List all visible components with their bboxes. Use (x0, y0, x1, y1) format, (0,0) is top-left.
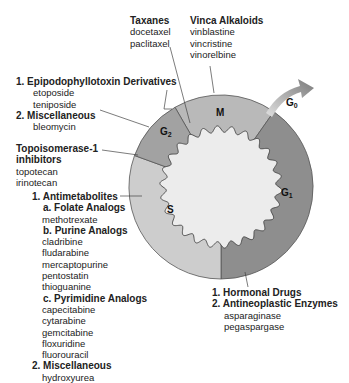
topoisomerase-group: Topoisomerase-1 inhibitors topotecan iri… (16, 143, 98, 188)
drug-vinorelbine: vinorelbine (190, 49, 263, 60)
drug-pentostatin: pentostatin (32, 270, 147, 281)
hormonal-drugs-heading: 1. Hormonal Drugs (212, 287, 338, 298)
drug-teniposide: teniposide (16, 99, 177, 110)
drug-gemcitabine: gemcitabine (32, 327, 147, 338)
taxanes-heading: Taxanes (130, 15, 171, 26)
drug-fludarabine: fludarabine (32, 247, 147, 258)
enzymes-heading: 2. Antineoplastic Enzymes (212, 298, 338, 309)
drug-thioguanine: thioguanine (32, 281, 147, 292)
drug-asparaginase: asparaginase (212, 310, 338, 321)
drug-etoposide: etoposide (16, 87, 177, 98)
drug-fluorouracil: fluorouracil (32, 349, 147, 360)
drug-mercaptopurine: mercaptopurine (32, 259, 147, 270)
drug-paclitaxel: paclitaxel (130, 38, 171, 49)
vinca-group: Vinca Alkaloids vinblastine vincristine … (190, 15, 263, 60)
taxanes-group: Taxanes docetaxel paclitaxel (130, 15, 171, 49)
pyrimidine-heading: c. Pyrimidine Analogs (32, 293, 147, 304)
drug-pegaspargase: pegaspargase (212, 321, 338, 332)
purine-heading: b. Purine Analogs (32, 225, 147, 236)
drug-irinotecan: irinotecan (16, 177, 98, 188)
drug-floxuridine: floxuridine (32, 338, 147, 349)
g2-misc-heading: 2. Miscellaneous (16, 110, 177, 121)
drug-cytarabine: cytarabine (32, 315, 147, 326)
s-misc-heading: 2. Miscellaneous (32, 360, 147, 371)
drug-capecitabine: capecitabine (32, 304, 147, 315)
drug-methotrexate: methotrexate (32, 214, 147, 225)
drug-cladribine: cladribine (32, 236, 147, 247)
vinca-heading: Vinca Alkaloids (190, 15, 263, 26)
epipodophyllotoxin-heading: 1. Epipodophyllotoxin Derivatives (16, 76, 177, 87)
drug-docetaxel: docetaxel (130, 26, 171, 37)
topo-heading-2: inhibitors (16, 154, 98, 165)
drug-hydroxyurea: hydroxyurea (32, 372, 147, 383)
s-drug-group: 1. Antimetabolites a. Folate Analogs met… (32, 191, 147, 383)
antimetabolites-heading: 1. Antimetabolites (32, 191, 147, 202)
drug-vincristine: vincristine (190, 38, 263, 49)
drug-vinblastine: vinblastine (190, 26, 263, 37)
phase-m-label: M (216, 107, 224, 118)
phase-g0-label: G0 (286, 97, 298, 109)
g1-drug-group: 1. Hormonal Drugs 2. Antineoplastic Enzy… (212, 287, 338, 332)
drug-topotecan: topotecan (16, 166, 98, 177)
folate-heading: a. Folate Analogs (32, 202, 147, 213)
drug-bleomycin: bleomycin (16, 121, 177, 132)
topo-heading: Topoisomerase-1 (16, 143, 98, 154)
g2-drug-group: 1. Epipodophyllotoxin Derivatives etopos… (16, 76, 177, 132)
phase-s-label: S (167, 204, 174, 215)
